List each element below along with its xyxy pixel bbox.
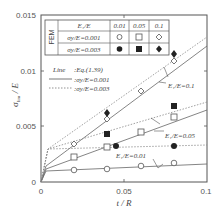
annotation-leaders (151, 67, 168, 168)
line-dotted-e01 (41, 37, 207, 182)
y-axis-tail: / E (10, 82, 20, 95)
legend-open-circle-icon (117, 35, 122, 40)
annotation-e001: E₁/E=0.01 (115, 152, 146, 160)
x-tick-0.1: 0.1 (200, 187, 212, 196)
dotted-lines (41, 37, 207, 182)
row-sy-0.001: σy/E=0.001 (67, 34, 100, 42)
y-tick-0.01: 0.01 (20, 67, 36, 76)
annotation-e005: E₁/E=0.05 (164, 132, 195, 140)
fem-legend-table: FEM E₁/E 0.01 0.05 0.1 σy/E=0.001 σy/E=0… (45, 20, 169, 55)
line-legend-eq: :Eq.(1.39) (74, 66, 103, 74)
line-legend: Line :Eq.(1.39) :σy/E=0.001 :σy/E=0.003 (49, 66, 110, 93)
solid-lines (41, 46, 207, 182)
chart: 0.015 0.01 0.005 0 0 0.05 0.1 t / R σlim… (0, 0, 223, 215)
y-tick-0: 0 (32, 178, 37, 187)
legend-filled-circle-icon (117, 46, 123, 52)
legend-open-square-icon (136, 34, 142, 40)
line-legend-solid: :σy/E=0.001 (74, 76, 110, 84)
line-solid-e005 (41, 110, 207, 182)
fem-label: FEM (48, 29, 55, 44)
y-tick-0.015: 0.015 (16, 11, 37, 20)
line-legend-dotted: :σy/E=0.003 (74, 85, 110, 93)
col-header: E₁/E (77, 22, 92, 30)
svg-text:σlim / E: σlim / E (10, 82, 21, 107)
markers-open-circle (71, 160, 177, 173)
line-dotted-e001 (41, 145, 207, 182)
col-0.1: 0.1 (155, 22, 164, 30)
annotation-e01: E₁/E=0.1 (167, 82, 194, 90)
y-axis-title: σlim / E (10, 82, 21, 107)
x-tick-0.05: 0.05 (116, 187, 132, 196)
x-tick-0: 0 (39, 187, 44, 196)
x-axis-title: t / R (117, 198, 133, 208)
col-0.05: 0.05 (133, 22, 146, 30)
y-tick-0.005: 0.005 (16, 122, 37, 131)
row-sy-0.003: σy/E=0.003 (67, 46, 101, 54)
legend-filled-square-icon (136, 46, 142, 52)
line-legend-title: Line (52, 66, 65, 74)
col-0.01: 0.01 (113, 22, 125, 30)
